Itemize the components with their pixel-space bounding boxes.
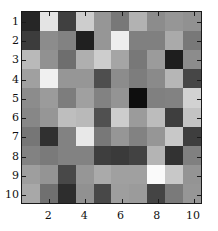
heatmap-cell	[165, 69, 183, 88]
heatmap-cell	[94, 88, 112, 107]
heatmap-cell	[129, 108, 147, 127]
heatmap-cell	[165, 108, 183, 127]
x-axis-tick-mark	[85, 199, 86, 203]
y-axis-tick-mark-right	[197, 41, 201, 42]
heatmap-cell	[40, 31, 58, 50]
heatmap-cell	[165, 50, 183, 69]
heatmap-plot-area	[21, 11, 202, 204]
y-axis-tick-mark-right	[197, 195, 201, 196]
heatmap-cell	[147, 165, 165, 184]
heatmap-cell	[183, 165, 201, 184]
heatmap-cell	[22, 146, 40, 165]
heatmap-cell	[76, 127, 94, 146]
heatmap-cell	[111, 69, 129, 88]
heatmap-cell	[183, 127, 201, 146]
y-axis-tick-label: 2	[0, 34, 19, 45]
heatmap-cell	[76, 88, 94, 107]
heatmap-cell	[129, 146, 147, 165]
x-axis-tick-mark-top	[85, 12, 86, 16]
heatmap-cell	[94, 31, 112, 50]
heatmap-cell	[58, 12, 76, 31]
heatmap-cell	[165, 12, 183, 31]
heatmap-cell	[76, 31, 94, 50]
y-axis-tick-label: 10	[0, 189, 19, 200]
heatmap-cell	[94, 184, 112, 203]
heatmap-cell	[183, 146, 201, 165]
heatmap-cell	[147, 12, 165, 31]
y-axis-tick-labels: 12345678910	[0, 11, 19, 204]
heatmap-cell	[111, 31, 129, 50]
y-axis-tick-mark	[22, 195, 26, 196]
heatmap-cell	[40, 69, 58, 88]
y-axis-tick-mark	[22, 118, 26, 119]
y-axis-tick-mark-right	[197, 22, 201, 23]
y-axis-tick-mark	[22, 80, 26, 81]
y-axis-tick-mark	[22, 157, 26, 158]
y-axis-tick-label: 8	[0, 150, 19, 161]
heatmap-cell	[147, 69, 165, 88]
heatmap-cell	[111, 88, 129, 107]
heatmap-cell	[94, 127, 112, 146]
heatmap-cell	[76, 146, 94, 165]
heatmap-cell	[129, 69, 147, 88]
heatmap-cell	[165, 184, 183, 203]
heatmap-cell	[40, 108, 58, 127]
heatmap-cell	[129, 50, 147, 69]
y-axis-tick-mark	[22, 60, 26, 61]
heatmap-cell	[40, 50, 58, 69]
x-axis-tick-mark-top	[194, 12, 195, 16]
heatmap-cell	[40, 88, 58, 107]
y-axis-tick-label: 6	[0, 112, 19, 123]
heatmap-cell	[165, 127, 183, 146]
y-axis-tick-label: 1	[0, 15, 19, 26]
heatmap-cell	[22, 184, 40, 203]
heatmap-cell	[165, 88, 183, 107]
heatmap-cell	[111, 165, 129, 184]
heatmap-cell	[147, 127, 165, 146]
x-axis-tick-mark	[122, 199, 123, 203]
heatmap-cell	[147, 108, 165, 127]
heatmap-cell	[94, 12, 112, 31]
heatmap-cell	[165, 31, 183, 50]
heatmap-cell	[22, 108, 40, 127]
x-axis-tick-label: 6	[109, 210, 133, 221]
heatmap-cell	[94, 69, 112, 88]
heatmap-cell	[58, 108, 76, 127]
heatmap-cell	[147, 146, 165, 165]
heatmap-cell	[111, 146, 129, 165]
heatmap-cell	[94, 50, 112, 69]
heatmap-cell	[165, 146, 183, 165]
heatmap-cell	[111, 184, 129, 203]
y-axis-tick-mark-right	[197, 157, 201, 158]
heatmap-cell	[183, 108, 201, 127]
heatmap-cell	[111, 50, 129, 69]
heatmap-cell	[76, 165, 94, 184]
heatmap-cell	[129, 165, 147, 184]
y-axis-tick-mark	[22, 137, 26, 138]
heatmap-cell	[58, 127, 76, 146]
x-axis-tick-mark	[158, 199, 159, 203]
matrix-plot-figure: 12345678910 246810	[0, 0, 218, 231]
heatmap-cell	[58, 31, 76, 50]
heatmap-cell	[183, 184, 201, 203]
heatmap-cell	[58, 146, 76, 165]
y-axis-tick-label: 5	[0, 92, 19, 103]
heatmap-cell	[58, 184, 76, 203]
y-axis-tick-label: 4	[0, 73, 19, 84]
x-axis-tick-label: 10	[181, 210, 205, 221]
heatmap-cell	[129, 127, 147, 146]
heatmap-cell	[147, 31, 165, 50]
heatmap-cell	[129, 12, 147, 31]
heatmap-cell	[94, 146, 112, 165]
x-axis-tick-label: 2	[36, 210, 60, 221]
x-axis-tick-mark	[194, 199, 195, 203]
y-axis-tick-mark-right	[197, 176, 201, 177]
y-axis-tick-mark	[22, 99, 26, 100]
heatmap-cell	[40, 165, 58, 184]
x-axis-tick-mark	[49, 199, 50, 203]
heatmap-cell	[165, 165, 183, 184]
heatmap-cell	[22, 165, 40, 184]
heatmap-cell	[76, 108, 94, 127]
x-axis-tick-labels: 246810	[21, 210, 202, 226]
heatmap-cell	[111, 127, 129, 146]
